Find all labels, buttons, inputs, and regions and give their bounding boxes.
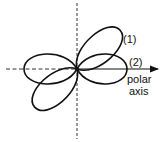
curve-1-label: (1) xyxy=(123,34,136,45)
curve-2-label: (2) xyxy=(129,57,142,68)
polar-diagram xyxy=(0,0,165,142)
polar-axis-label-line2: axis xyxy=(129,86,149,97)
polar-axis-label-line1: polar xyxy=(127,74,151,85)
origin-point xyxy=(75,67,79,71)
